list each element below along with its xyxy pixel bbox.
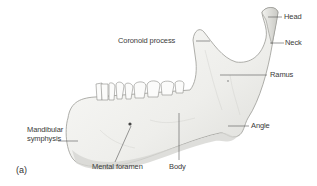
label-mental-foramen: Mental foramen <box>92 162 143 171</box>
label-mandibular-symphysis-line1: Mandibular <box>27 125 63 134</box>
label-head: Head <box>284 12 302 21</box>
label-mandibular-symphysis-line2: symphysis <box>27 134 61 143</box>
mental-foramen-dot <box>128 122 131 125</box>
condyle-shape <box>262 8 278 45</box>
label-ramus: Ramus <box>270 70 293 79</box>
mandibular-foramen-dot <box>227 80 229 82</box>
label-body: Body <box>169 162 186 171</box>
label-neck: Neck <box>285 38 302 47</box>
label-coronoid-process: Coronoid process <box>118 36 175 45</box>
panel-label: (a) <box>16 165 27 175</box>
mandible-illustration <box>0 0 317 186</box>
mandible-figure: Head Neck Coronoid process Ramus Angle B… <box>0 0 317 186</box>
label-angle: Angle <box>251 121 270 130</box>
